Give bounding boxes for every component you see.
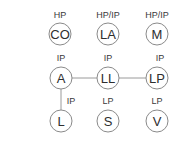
tag-co: HP: [54, 10, 67, 20]
node-lp: LP: [146, 67, 168, 89]
node-a: A: [50, 67, 72, 89]
node-s-label: S: [104, 114, 113, 129]
tag-a: IP: [57, 53, 66, 63]
node-la: LA: [97, 23, 119, 45]
node-l-label: L: [57, 114, 64, 129]
node-v: V: [146, 110, 168, 132]
tag-l: IP: [67, 96, 76, 106]
node-ll: LL: [97, 67, 119, 89]
tag-la: HP/IP: [96, 10, 120, 20]
node-co-label: CO: [50, 27, 70, 42]
node-la-label: LA: [100, 27, 116, 42]
tag-ll: IP: [104, 53, 113, 63]
node-m-label: M: [152, 27, 163, 42]
node-co: CO: [49, 23, 71, 45]
tag-m: HP/IP: [145, 10, 169, 20]
node-lp-label: LP: [149, 71, 165, 86]
tag-s: LP: [102, 96, 113, 106]
tag-lp: IP: [156, 53, 165, 63]
node-ll-label: LL: [101, 71, 115, 86]
node-l: L: [50, 110, 72, 132]
node-v-label: V: [153, 114, 162, 129]
node-diagram: HP CO HP/IP LA HP/IP M IP A IP LL IP LP …: [0, 0, 187, 144]
node-s: S: [97, 110, 119, 132]
tag-v: LP: [151, 96, 162, 106]
node-m: M: [146, 23, 168, 45]
node-a-label: A: [57, 71, 66, 86]
